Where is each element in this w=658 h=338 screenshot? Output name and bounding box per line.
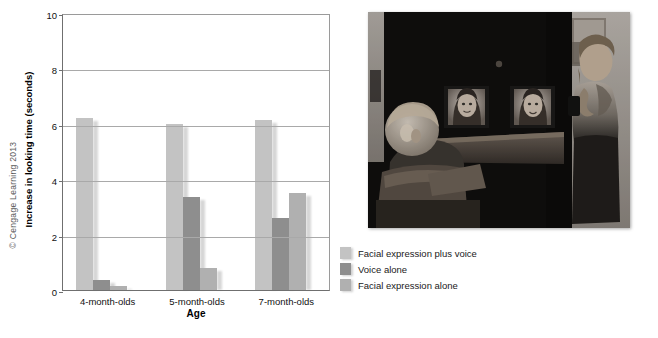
gridline bbox=[63, 181, 329, 182]
bar-fill bbox=[272, 218, 289, 290]
y-axis-title: Increase in looking time (seconds) bbox=[23, 50, 34, 250]
bar bbox=[183, 197, 200, 290]
bar bbox=[76, 118, 93, 290]
legend-label: Facial expression alone bbox=[358, 280, 458, 291]
y-tick-label: 6 bbox=[52, 120, 57, 131]
bar bbox=[272, 218, 289, 290]
y-tick-mark bbox=[59, 126, 63, 127]
bar bbox=[93, 280, 110, 290]
y-tick-mark bbox=[59, 292, 63, 293]
y-tick-mark bbox=[59, 70, 63, 71]
bar-fill bbox=[110, 286, 127, 290]
y-tick-label: 4 bbox=[52, 176, 57, 187]
legend-swatch bbox=[340, 247, 351, 259]
bar-chart: Increase in looking time (seconds) 02468… bbox=[0, 0, 360, 338]
legend-label: Facial expression plus voice bbox=[358, 248, 477, 259]
bar-fill bbox=[93, 280, 110, 290]
figure-root: © Cengage Learning 2013 Increase in look… bbox=[0, 0, 658, 338]
bar bbox=[166, 124, 183, 290]
bar-fill bbox=[76, 118, 93, 290]
bar-fill bbox=[289, 193, 306, 290]
legend-item: Voice alone bbox=[340, 262, 540, 276]
bar bbox=[289, 193, 306, 290]
bar-fill bbox=[183, 197, 200, 290]
bar-shadow bbox=[127, 289, 132, 290]
experiment-photo bbox=[368, 12, 630, 228]
x-tick-label: 5-month-olds bbox=[169, 296, 224, 307]
bar-shadow bbox=[93, 121, 98, 290]
bar bbox=[110, 286, 127, 290]
bar-fill bbox=[255, 120, 272, 290]
y-tick-mark bbox=[59, 15, 63, 16]
bar-fill bbox=[166, 124, 183, 290]
x-tick-label: 4-month-olds bbox=[80, 296, 135, 307]
legend-swatch bbox=[340, 263, 351, 275]
gridline bbox=[63, 126, 329, 127]
y-tick-label: 2 bbox=[52, 231, 57, 242]
legend-swatch bbox=[340, 279, 351, 291]
legend-item: Facial expression alone bbox=[340, 278, 540, 292]
y-tick-label: 10 bbox=[46, 10, 57, 21]
chart-legend: Facial expression plus voiceVoice aloneF… bbox=[340, 246, 540, 294]
bar-group-container bbox=[63, 15, 329, 290]
x-axis-title: Age bbox=[62, 308, 330, 319]
bar bbox=[255, 120, 272, 290]
y-tick-mark bbox=[59, 237, 63, 238]
y-tick-label: 0 bbox=[52, 287, 57, 298]
bar bbox=[200, 268, 217, 290]
plot-area: 02468104-month-olds5-month-olds7-month-o… bbox=[62, 14, 330, 291]
x-tick-label: 7-month-olds bbox=[259, 296, 314, 307]
bar-shadow bbox=[217, 271, 222, 290]
y-tick-mark bbox=[59, 181, 63, 182]
legend-item: Facial expression plus voice bbox=[340, 246, 540, 260]
gridline bbox=[63, 237, 329, 238]
y-tick-label: 8 bbox=[52, 65, 57, 76]
legend-label: Voice alone bbox=[358, 264, 407, 275]
bar-shadow bbox=[306, 196, 311, 290]
bar-fill bbox=[200, 268, 217, 290]
gridline bbox=[63, 70, 329, 71]
